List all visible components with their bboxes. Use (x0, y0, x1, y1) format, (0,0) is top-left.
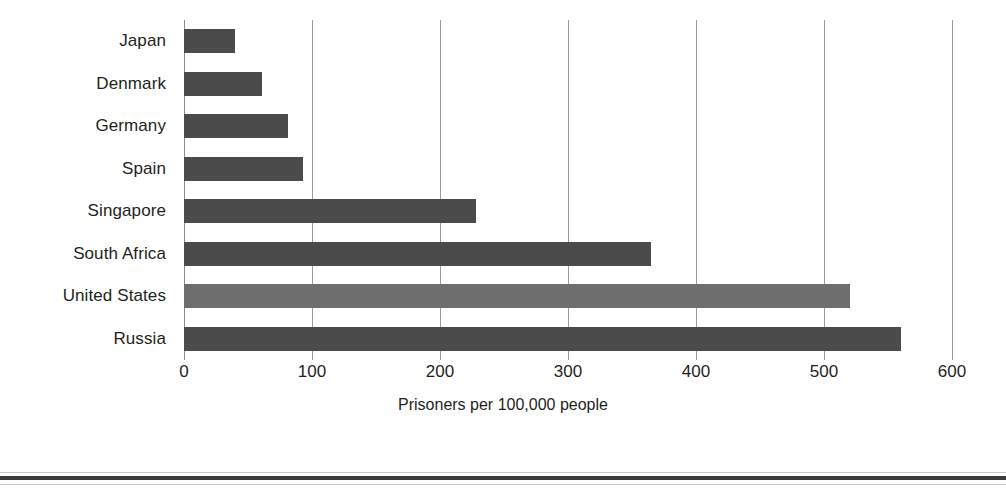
bar-chart-figure: Japan Denmark Germany Spain Singapore So… (0, 0, 1006, 498)
x-axis-ticks: 0 100 200 300 400 500 600 (184, 362, 952, 388)
x-axis-title: Prisoners per 100,000 people (0, 396, 1006, 414)
bar-row (184, 233, 651, 276)
bar-spain (184, 157, 303, 181)
bar-row (184, 148, 303, 191)
bar-russia (184, 327, 901, 351)
bar-series (184, 20, 952, 360)
divider-thin-top (0, 472, 1006, 473)
category-label-spain: Spain (122, 148, 166, 191)
bar-row (184, 105, 288, 148)
xtick-label-200: 200 (426, 362, 454, 382)
bar-row (184, 20, 235, 63)
plot-area (184, 20, 952, 360)
xtick-label-500: 500 (810, 362, 838, 382)
bar-row (184, 318, 901, 361)
xtick-label-400: 400 (682, 362, 710, 382)
xtick-label-0: 0 (179, 362, 188, 382)
category-label-japan: Japan (119, 20, 166, 63)
bar-germany (184, 114, 288, 138)
category-label-united-states: United States (63, 275, 166, 318)
bar-singapore (184, 199, 476, 223)
divider-thick (0, 476, 1006, 480)
bar-row (184, 63, 262, 106)
bar-japan (184, 29, 235, 53)
bar-united-states (184, 284, 850, 308)
category-label-russia: Russia (113, 318, 166, 361)
category-label-germany: Germany (95, 105, 166, 148)
category-label-south-africa: South Africa (73, 233, 166, 276)
bar-row (184, 190, 476, 233)
bar-south-africa (184, 242, 651, 266)
xtick-label-600: 600 (938, 362, 966, 382)
xtick-label-100: 100 (298, 362, 326, 382)
bar-denmark (184, 72, 262, 96)
xtick-label-300: 300 (554, 362, 582, 382)
category-label-denmark: Denmark (96, 63, 166, 106)
divider-thin-bottom (0, 484, 1006, 485)
bar-row (184, 275, 850, 318)
category-axis-labels: Japan Denmark Germany Spain Singapore So… (0, 20, 166, 360)
gridline-600 (952, 20, 953, 360)
category-label-singapore: Singapore (88, 190, 166, 233)
